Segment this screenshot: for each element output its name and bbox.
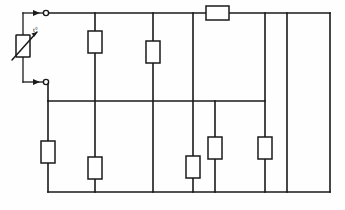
circuit-diagram-canvas: t° [0, 0, 345, 210]
resistor-r1 [88, 31, 102, 53]
resistor-r5 [88, 157, 102, 179]
thermistor-branch: t° [12, 13, 46, 82]
upper-terminal-arrow-icon [33, 10, 40, 16]
thermistor-temperature-label: t° [33, 26, 38, 34]
resistor-r7 [208, 137, 222, 159]
upper-terminal-dot [43, 10, 48, 15]
circuit-schematic: t° [0, 0, 345, 210]
resistor-r2 [146, 41, 160, 63]
terminals [33, 10, 49, 101]
resistors [41, 6, 272, 179]
resistor-r6 [186, 156, 200, 178]
resistor-r8 [258, 137, 272, 159]
branch-wires [48, 13, 287, 192]
lower-terminal-arrow-icon [33, 79, 40, 85]
resistor-r4 [41, 141, 55, 163]
resistor-r3-horizontal [206, 6, 229, 20]
